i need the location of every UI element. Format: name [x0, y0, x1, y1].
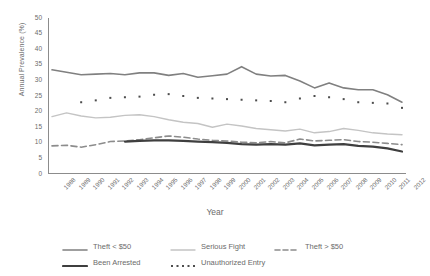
x-axis-title: Year: [0, 207, 430, 217]
line-dashed-gray-icon: [274, 241, 300, 251]
x-tick-1995: 1995: [164, 176, 179, 191]
legend-dot: [188, 265, 190, 267]
legend-row-2: Been ArrestedUnauthorized Entry: [0, 254, 430, 270]
data-point: [299, 97, 301, 99]
x-tick-2012: 2012: [412, 176, 427, 191]
y-tick-40: 40: [20, 46, 42, 53]
data-point: [139, 96, 141, 98]
legend-dot: [193, 265, 195, 267]
legend-key-icon: [62, 261, 88, 271]
series-theft-50: [52, 67, 402, 103]
line-solid-gray-icon: [62, 241, 88, 251]
legend-item-theft-50[interactable]: Theft < $50: [62, 241, 131, 251]
data-point: [401, 107, 403, 109]
x-tick-2010: 2010: [383, 176, 398, 191]
data-point: [95, 99, 97, 101]
legend-label: Theft > $50: [305, 242, 343, 251]
line-solid-dark-icon: [62, 257, 88, 267]
legend-item-theft-50[interactable]: Theft > $50: [274, 241, 343, 251]
x-tick-2001: 2001: [252, 176, 267, 191]
line-chart-svg: [48, 18, 406, 174]
legend-dot: [177, 265, 179, 267]
data-point: [226, 98, 228, 100]
x-tick-2006: 2006: [325, 176, 340, 191]
x-tick-1998: 1998: [208, 176, 223, 191]
y-tick-20: 20: [20, 108, 42, 115]
data-point: [328, 96, 330, 98]
legend-item-serious-fight[interactable]: Serious Fight: [170, 241, 245, 251]
legend-key-icon: [170, 261, 196, 271]
data-point: [153, 94, 155, 96]
x-tick-1988: 1988: [62, 176, 77, 191]
data-point: [182, 95, 184, 97]
series-serious-fight: [52, 113, 402, 135]
line-solid-lightgray-icon: [170, 241, 196, 251]
data-point: [343, 98, 345, 100]
data-point: [211, 97, 213, 99]
y-tick-50: 50: [20, 15, 42, 22]
data-point: [80, 101, 82, 103]
x-tick-2009: 2009: [368, 176, 383, 191]
legend-item-unauthorized-entry[interactable]: Unauthorized Entry: [170, 257, 265, 267]
x-tick-1996: 1996: [179, 176, 194, 191]
data-point: [270, 100, 272, 102]
y-tick-35: 35: [20, 61, 42, 68]
x-tick-2003: 2003: [281, 176, 296, 191]
data-point: [197, 97, 199, 99]
x-tick-1989: 1989: [77, 176, 92, 191]
y-tick-15: 15: [20, 124, 42, 131]
series-unauthorized-entry: [80, 93, 403, 109]
y-tick-45: 45: [20, 30, 42, 37]
x-tick-1994: 1994: [150, 176, 165, 191]
data-point: [168, 93, 170, 95]
data-point: [284, 101, 286, 103]
data-point: [109, 97, 111, 99]
x-tick-2011: 2011: [397, 176, 411, 190]
legend-label: Been Arrested: [93, 258, 141, 267]
x-tick-1991: 1991: [106, 176, 121, 191]
x-tick-1997: 1997: [193, 176, 208, 191]
data-point: [357, 101, 359, 103]
legend-label: Theft < $50: [93, 242, 131, 251]
line-dotted-dark-icon: [170, 257, 196, 267]
x-tick-1992: 1992: [120, 176, 135, 191]
data-point: [314, 95, 316, 97]
x-tick-2008: 2008: [354, 176, 369, 191]
x-tick-2000: 2000: [237, 176, 252, 191]
y-tick-0: 0: [20, 171, 42, 178]
x-tick-2005: 2005: [310, 176, 325, 191]
data-point: [124, 96, 126, 98]
chart-legend: Theft < $50Serious FightTheft > $50 Been…: [0, 238, 430, 270]
y-tick-25: 25: [20, 93, 42, 100]
x-tick-1999: 1999: [222, 176, 237, 191]
data-point: [255, 99, 257, 101]
x-tick-2002: 2002: [266, 176, 281, 191]
y-tick-30: 30: [20, 77, 42, 84]
legend-dot: [182, 265, 184, 267]
x-tick-1993: 1993: [135, 176, 150, 191]
legend-label: Serious Fight: [201, 242, 245, 251]
y-tick-5: 5: [20, 155, 42, 162]
plot-area: [48, 18, 406, 174]
chart-figure: Annual Prevalence (%) Year 0510152025303…: [0, 0, 430, 276]
y-tick-10: 10: [20, 139, 42, 146]
legend-row-1: Theft < $50Serious FightTheft > $50: [0, 238, 430, 254]
legend-item-been-arrested[interactable]: Been Arrested: [62, 257, 141, 267]
data-point: [386, 102, 388, 104]
data-point: [241, 99, 243, 101]
legend-label: Unauthorized Entry: [201, 258, 265, 267]
x-tick-1990: 1990: [91, 176, 106, 191]
x-tick-2007: 2007: [339, 176, 354, 191]
data-point: [372, 102, 374, 104]
legend-dot: [171, 265, 173, 267]
x-tick-2004: 2004: [295, 176, 310, 191]
